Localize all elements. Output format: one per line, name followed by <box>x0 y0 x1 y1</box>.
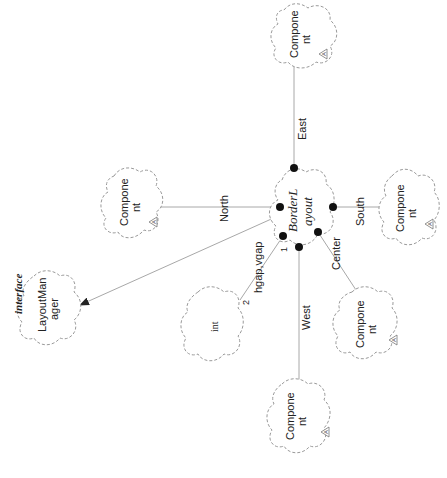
association-dot-west <box>295 243 303 251</box>
class-name-line2: nt <box>300 35 312 44</box>
class-name-borderlayout-line2: ayout <box>300 197 315 226</box>
multiplicity-target: 2 <box>241 300 251 305</box>
class-name-line1: Compone <box>284 392 296 440</box>
class-component-west[interactable]: Compone nt A <box>267 379 330 453</box>
class-name-borderlayout-line1: BorderL <box>285 188 300 232</box>
class-int[interactable]: int <box>181 287 243 361</box>
association-dot-east <box>290 164 298 172</box>
class-name-line2: ager <box>48 298 60 320</box>
class-name-line2: nt <box>296 417 308 426</box>
class-name-line2: nt <box>406 209 418 218</box>
class-name-line1: LayoutMan <box>36 278 48 332</box>
svg-text:A: A <box>323 430 329 434</box>
association-dot-north <box>276 203 284 211</box>
class-name-line2: nt <box>130 203 142 212</box>
class-component-center[interactable]: Compone nt A <box>333 287 397 359</box>
association-dot-hgap-vgap <box>279 232 287 240</box>
class-name-line1: Compone <box>288 10 300 58</box>
class-diagram: BorderL ayout Compone nt A Compone nt A … <box>0 0 447 478</box>
svg-text:A: A <box>321 52 327 56</box>
edge-label-north: North <box>218 195 230 222</box>
class-component-north[interactable]: Compone nt A <box>101 168 163 238</box>
class-component-east[interactable]: Compone nt A <box>271 4 337 68</box>
stereotype-interface: interface <box>12 274 24 314</box>
association-dot-center <box>314 228 322 236</box>
class-component-south[interactable]: Compone nt A <box>379 169 439 245</box>
class-name-line1: Compone <box>354 300 366 348</box>
edge-label-center: Center <box>330 237 342 270</box>
edge-label-south: South <box>354 197 366 226</box>
multiplicity-source: 1 <box>279 247 289 252</box>
association-dot-south <box>329 203 337 211</box>
edge-label-hgap-vgap: hgap,vgap <box>252 242 264 293</box>
edge-label-east: East <box>296 118 308 140</box>
class-name-line2: nt <box>366 325 378 334</box>
svg-text:A: A <box>391 338 397 342</box>
class-name-line1: Compone <box>118 178 130 226</box>
svg-text:A: A <box>151 220 157 224</box>
edge-label-west: West <box>300 305 312 330</box>
class-name-int: int <box>209 321 220 332</box>
class-name-line1: Compone <box>394 184 406 232</box>
svg-text:A: A <box>427 222 433 226</box>
class-layoutmanager[interactable]: LayoutMan ager <box>17 271 81 345</box>
